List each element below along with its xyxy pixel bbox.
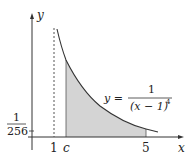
- x-tick-5: 5: [142, 141, 150, 155]
- y-axis-label: y: [36, 8, 44, 22]
- x-tick-1: 1: [50, 141, 58, 155]
- x-axis-label: x: [178, 141, 185, 155]
- y-tick-denominator: 256: [7, 125, 28, 138]
- x-axis-arrow: [178, 135, 184, 139]
- x-tick-c: c: [63, 141, 70, 155]
- equation-denominator: (x − 1): [130, 100, 168, 113]
- equation-numerator: 1: [148, 83, 155, 96]
- equation-exponent: 4: [166, 98, 171, 106]
- y-axis-arrow: [30, 13, 34, 19]
- equation-lhs: y =: [103, 92, 123, 105]
- y-tick-numerator: 1: [13, 111, 20, 124]
- graph: y x 1 c 5 1 256 y = 1 (x − 1) 4: [0, 0, 193, 161]
